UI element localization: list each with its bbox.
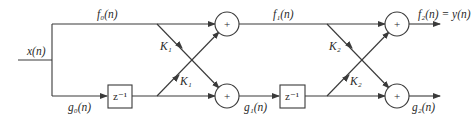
f2-output-label: f₂(n) = y(n) — [418, 8, 471, 21]
plus-icon: + — [394, 90, 400, 102]
input-label: x(n) — [26, 45, 46, 58]
plus-icon: + — [224, 18, 230, 30]
f1-label: f₁(n) — [273, 8, 294, 21]
g0-label: g₀(n) — [68, 101, 91, 114]
delay-block-1: z⁻¹ — [108, 85, 132, 108]
adder-1-top: + — [215, 12, 239, 36]
k1-top-label: K₁ — [159, 40, 172, 52]
input-wire — [18, 24, 52, 96]
k1-bottom-label: K₁ — [179, 75, 192, 87]
plus-icon: + — [394, 18, 400, 30]
adder-2-bottom: + — [385, 84, 409, 108]
k2-top-label: K₂ — [328, 40, 341, 52]
lattice-filter-diagram: x(n) f₀(n) g₀(n) z⁻¹ K₁ K₁ + + f₀(n) f₁(… — [0, 0, 475, 116]
plus-icon: + — [224, 90, 230, 102]
f0-label: f₀(n) — [97, 8, 118, 21]
k2-bottom-label: K₂ — [349, 75, 362, 87]
g2-output-label: g₂(n) — [412, 101, 435, 114]
delay-2-label: z⁻¹ — [285, 90, 299, 102]
adder-2-top: + — [385, 12, 409, 36]
delay-1-label: z⁻¹ — [113, 90, 127, 102]
adder-1-bottom: + — [215, 84, 239, 108]
g1-label: g₁(n) — [244, 101, 267, 114]
delay-block-2: z⁻¹ — [280, 85, 305, 108]
